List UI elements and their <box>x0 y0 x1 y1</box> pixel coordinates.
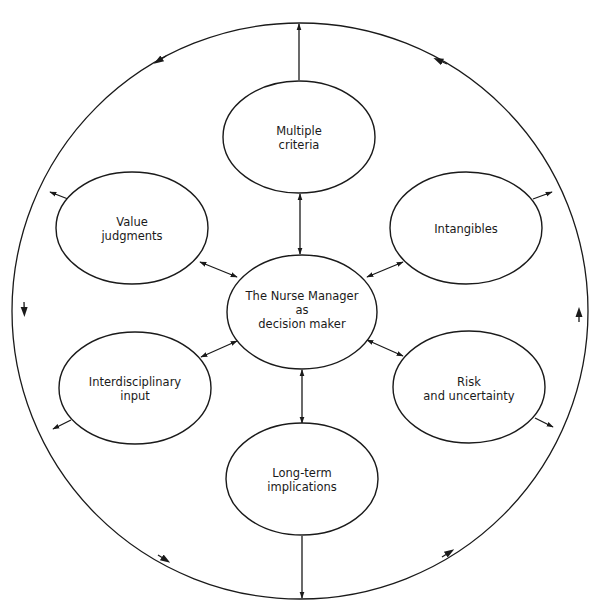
node-label-line-2: and uncertainty <box>423 389 515 403</box>
node-long-term-implications: Long-term implications <box>226 423 378 535</box>
center-label-line-3: decision maker <box>258 317 346 331</box>
link-intangibles <box>367 262 403 277</box>
node-label-line-1: Risk <box>457 375 481 389</box>
outward-value-judgments <box>50 192 68 199</box>
outward-risk-uncertainty <box>535 418 553 427</box>
center-label-line-2: as <box>295 303 308 317</box>
node-label-line-1: Intangibles <box>434 222 498 236</box>
center-label-line-1: The Nurse Manager <box>245 289 359 303</box>
decision-diagram: The Nurse Manager as decision maker Mult… <box>0 0 599 609</box>
node-interdisciplinary-input: Interdisciplinary input <box>59 332 211 444</box>
node-intangibles: Intangibles <box>390 172 542 284</box>
node-risk-uncertainty: Risk and uncertainty <box>393 331 545 443</box>
cycle-arrow-icon <box>158 555 166 560</box>
link-value-judgments <box>200 262 237 277</box>
node-label-line-2: criteria <box>279 138 320 152</box>
link-interdisciplinary-input <box>201 341 237 357</box>
outward-intangibles <box>533 192 552 199</box>
node-label-line-1: Interdisciplinary <box>89 375 182 389</box>
node-label-line-2: judgments <box>100 229 162 243</box>
node-label-line-1: Long-term <box>272 466 331 480</box>
center-node-nurse-manager: The Nurse Manager as decision maker <box>227 255 377 369</box>
cycle-arrow-icon <box>158 56 166 61</box>
node-label-line-2: input <box>120 389 150 403</box>
link-risk-uncertainty <box>367 340 403 356</box>
node-value-judgments: Value judgments <box>56 172 208 284</box>
cycle-arrow-icon <box>442 552 450 557</box>
node-label-line-1: Multiple <box>276 124 322 138</box>
node-multiple-criteria: Multiple criteria <box>223 81 375 193</box>
node-label-line-2: implications <box>267 480 336 494</box>
outward-interdisciplinary-input <box>53 420 71 429</box>
node-label-line-1: Value <box>116 215 148 229</box>
